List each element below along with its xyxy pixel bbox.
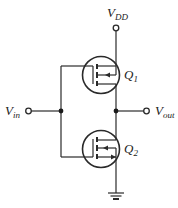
vout-label: Vout	[155, 103, 175, 120]
q2-arrow-icon	[103, 146, 108, 151]
q2-label: Q2	[124, 141, 138, 158]
vin-terminal	[26, 108, 32, 114]
q2-body-circle	[83, 131, 120, 168]
ground-icon	[108, 193, 124, 199]
cmos-inverter-diagram: VDD Q1 Vin Vout	[0, 0, 178, 208]
vout-terminal	[144, 108, 150, 114]
q1-arrow-icon	[105, 73, 110, 78]
output-junction	[114, 109, 119, 114]
vdd-terminal	[113, 25, 119, 31]
input-junction	[59, 109, 64, 114]
q1-pmos-transistor	[61, 57, 120, 141]
q2-nmos-transistor	[61, 131, 120, 194]
vin-label: Vin	[5, 103, 20, 120]
vdd-label: VDD	[107, 5, 128, 22]
q1-label: Q1	[124, 67, 138, 84]
